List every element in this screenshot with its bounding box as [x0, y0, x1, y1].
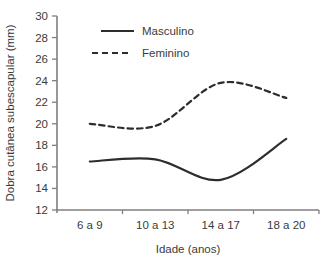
- legend: Masculino Feminino: [92, 23, 194, 60]
- y-tick-label: 30: [35, 10, 48, 22]
- dashed-line-swatch-icon: [92, 50, 134, 56]
- legend-label-masculino: Masculino: [142, 25, 194, 37]
- y-tick-label: 18: [35, 139, 48, 151]
- y-tick-label: 24: [35, 75, 48, 87]
- chart-container: 121416182022242628306 a 910 a 1314 a 171…: [0, 0, 336, 268]
- y-tick-label: 16: [35, 161, 48, 173]
- series-line-masculino: [90, 139, 286, 180]
- x-axis-title: Idade (anos): [57, 243, 319, 255]
- y-tick-label: 14: [35, 182, 48, 194]
- legend-label-feminino: Feminino: [142, 47, 189, 59]
- y-tick-label: 26: [35, 53, 48, 65]
- solid-line-swatch-icon: [92, 28, 134, 34]
- x-category-label: 6 a 9: [77, 219, 103, 231]
- y-tick-label: 22: [35, 96, 48, 108]
- y-axis-title: Dobra cutânea subescapular (mm): [4, 13, 18, 213]
- y-tick-label: 20: [35, 118, 48, 130]
- x-category-label: 18 a 20: [267, 219, 305, 231]
- y-tick-label: 28: [35, 32, 48, 44]
- legend-item-feminino: Feminino: [92, 45, 194, 60]
- x-category-label: 10 a 13: [136, 219, 174, 231]
- legend-item-masculino: Masculino: [92, 23, 194, 38]
- x-category-label: 14 a 17: [202, 219, 240, 231]
- y-tick-label: 12: [35, 204, 48, 216]
- series-line-feminino: [90, 82, 286, 129]
